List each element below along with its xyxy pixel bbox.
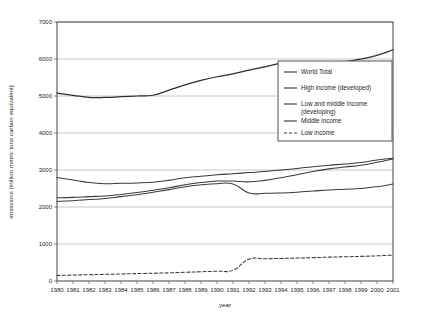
x-tick-label: 1988 xyxy=(178,287,192,293)
y-tick-label: 7000 xyxy=(39,19,53,25)
x-tick-label: 1981 xyxy=(66,287,80,293)
chart-background xyxy=(0,0,429,321)
legend-label-1: High income (developed) xyxy=(301,84,371,92)
y-tick-label: 4000 xyxy=(39,130,53,136)
legend-label-3: (developing) xyxy=(301,108,336,116)
y-tick-label: 5000 xyxy=(39,93,53,99)
x-tick-label: 1996 xyxy=(306,287,320,293)
x-tick-label: 1990 xyxy=(210,287,224,293)
legend-label-4: Middle income xyxy=(301,117,342,124)
x-axis-title: year xyxy=(219,301,231,308)
x-tick-label: 1993 xyxy=(258,287,272,293)
chart-canvas: 01000200030004000500060007000 1980198119… xyxy=(0,0,429,321)
x-tick-label: 1998 xyxy=(338,287,352,293)
y-tick-label: 3000 xyxy=(39,167,53,173)
x-tick-label: 1982 xyxy=(82,287,96,293)
x-tick-label: 1997 xyxy=(322,287,336,293)
y-axis-title: emissions (million metric tons carbon eq… xyxy=(7,85,14,218)
legend-label-2: Low and middle income xyxy=(301,100,368,107)
legend-label-0: World Total xyxy=(301,68,332,75)
x-tick-label: 1989 xyxy=(194,287,208,293)
x-tick-label: 1980 xyxy=(50,287,64,293)
x-tick-label: 1985 xyxy=(130,287,144,293)
x-tick-label: 1984 xyxy=(114,287,128,293)
x-tick-label: 1995 xyxy=(290,287,304,293)
x-tick-label: 1999 xyxy=(354,287,368,293)
x-tick-label: 1987 xyxy=(162,287,176,293)
y-tick-label: 6000 xyxy=(39,56,53,62)
x-tick-label: 2000 xyxy=(370,287,384,293)
x-tick-label: 1994 xyxy=(274,287,288,293)
emissions-line-chart: 01000200030004000500060007000 1980198119… xyxy=(0,0,429,321)
chart-legend: World TotalHigh income (developed)Low an… xyxy=(278,61,392,141)
y-tick-label: 1000 xyxy=(39,241,53,247)
x-tick-label: 2001 xyxy=(386,287,400,293)
x-tick-label: 1991 xyxy=(226,287,240,293)
legend-label-5: Low income xyxy=(301,129,335,136)
y-tick-label: 2000 xyxy=(39,204,53,210)
x-tick-label: 1986 xyxy=(146,287,160,293)
x-tick-label: 1992 xyxy=(242,287,256,293)
x-tick-label: 1983 xyxy=(98,287,112,293)
